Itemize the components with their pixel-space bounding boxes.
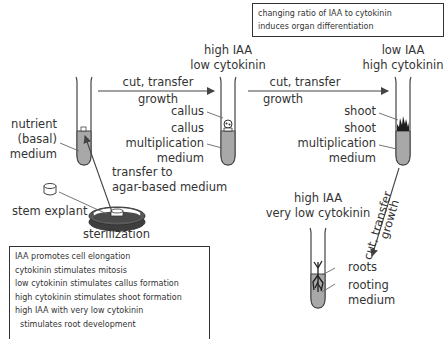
- callus-condition: high IAA low cytokinin: [186, 43, 270, 73]
- top-note-box: changing ratio of IAA to cytokinin induc…: [252, 3, 444, 37]
- root-condition-iaa: high IAA: [262, 191, 374, 206]
- arrow-transfer: [85, 136, 112, 212]
- nutrient-medium-line1: nutrient: [0, 117, 57, 132]
- callus-condition-iaa: high IAA: [186, 43, 270, 58]
- shoot-condition-iaa: low IAA: [357, 43, 446, 58]
- arrow2-label-top: cut, transfer: [255, 75, 355, 90]
- stem-explant-icon: [44, 184, 56, 196]
- rooting-medium-label: rooting medium: [348, 278, 395, 308]
- test-tube-shoot: [395, 77, 411, 165]
- callus-medium-line2: multiplication: [120, 136, 204, 151]
- legend-item: high IAA with very low cytokinin: [15, 304, 204, 318]
- arrow2-label-bottom: growth: [248, 92, 318, 107]
- legend-item: stimulates root development: [15, 318, 204, 332]
- callus-condition-cytokinin: low cytokinin: [186, 58, 270, 73]
- test-tube-callus: [220, 77, 236, 165]
- shoot-label: shoot: [320, 104, 376, 119]
- root-condition: high IAA very low cytokinin: [262, 191, 374, 221]
- transfer-line1: transfer to: [112, 165, 227, 180]
- arrow1-label-top: cut, transfer: [108, 75, 208, 90]
- root-condition-cytokinin: very low cytokinin: [262, 206, 374, 221]
- transfer-line2: agar-based medium: [112, 180, 227, 195]
- callus-label: callus: [150, 104, 204, 119]
- test-tube-roots: [310, 228, 326, 308]
- rooting-medium-line1: rooting: [348, 278, 395, 293]
- roots-label: roots: [348, 260, 377, 275]
- rooting-medium-line2: medium: [348, 293, 395, 308]
- legend-item: IAA promotes cell elongation: [15, 250, 204, 264]
- shoot-condition-cytokinin: high cytokinin: [357, 58, 446, 73]
- shoot-medium-line1: shoot: [290, 121, 376, 136]
- callus-medium-line1: callus: [120, 121, 204, 136]
- nutrient-medium-line3: medium: [0, 147, 57, 162]
- legend-item: cytokinin stimulates mitosis: [15, 264, 204, 278]
- nutrient-medium-line2: (basal): [0, 132, 57, 147]
- legend-item: low cytokinin stimulates callus formatio…: [15, 277, 204, 291]
- top-note-line1: changing ratio of IAA to cytokinin: [258, 7, 438, 20]
- test-tube-initial: [76, 77, 92, 165]
- callus-medium-line3: medium: [120, 151, 204, 166]
- legend-item: high cytokinin stimulates shoot formatio…: [15, 291, 204, 305]
- nutrient-medium-label: nutrient (basal) medium: [0, 117, 57, 162]
- shoot-medium-line3: medium: [290, 151, 376, 166]
- transfer-label: transfer to agar-based medium: [112, 165, 227, 195]
- callus-medium-label: callus multiplication medium: [120, 121, 204, 166]
- top-note-line2: induces organ differentiation: [258, 20, 438, 33]
- shoot-medium-label: shoot multiplication medium: [290, 121, 376, 166]
- legend-box: IAA promotes cell elongation cytokinin s…: [9, 246, 210, 339]
- stem-explant-label: stem explant: [12, 204, 87, 219]
- shoot-condition: low IAA high cytokinin: [357, 43, 446, 73]
- shoot-medium-line2: multiplication: [290, 136, 376, 151]
- sterilization-label: sterilization: [83, 227, 150, 242]
